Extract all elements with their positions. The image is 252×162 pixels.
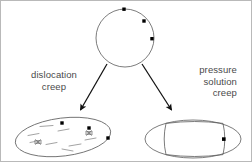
dislocation-creep-grain: [13, 112, 113, 161]
label-pressure-solution-creep-line-1: pressure: [175, 64, 237, 76]
dislocation-tangle-left: [35, 140, 42, 145]
label-pressure-solution-creep-line-3: creep: [175, 87, 237, 99]
label-dislocation-creep-line-2: creep: [23, 81, 85, 93]
deformation-mechanism-diagram: dislocation creep pressure solution cree…: [0, 0, 252, 162]
pressure-solution-grain-outline: [145, 120, 241, 158]
grain-marker-top: [122, 8, 125, 11]
label-dislocation-creep: dislocation creep: [23, 69, 85, 92]
dislocation-grain-marker-middle: [87, 126, 90, 129]
pressure-solution-grain: [145, 120, 241, 158]
label-dislocation-creep-line-1: dislocation: [23, 69, 85, 81]
initial-grain: [96, 8, 154, 68]
grain-marker-right: [150, 37, 153, 40]
dislocation-grain-marker-left: [60, 121, 63, 124]
dislocation-grain-marker-right: [106, 136, 109, 139]
pressure-solution-grain-marker: [222, 137, 226, 141]
label-pressure-solution-creep: pressure solution creep: [175, 64, 237, 99]
arrow-group: [81, 64, 172, 110]
initial-grain-outline: [96, 9, 154, 67]
grain-marker-upper-right: [142, 19, 145, 22]
label-pressure-solution-creep-line-2: solution: [175, 76, 237, 88]
dislocation-grain-outline: [13, 112, 113, 161]
dislocation-tangle-right: [86, 131, 93, 136]
arrow-to-pressure-solution-creep: [142, 64, 172, 110]
